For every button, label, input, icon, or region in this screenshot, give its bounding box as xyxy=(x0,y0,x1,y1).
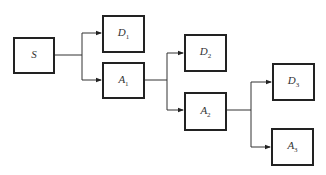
node-d3-label: D3 xyxy=(288,74,299,89)
node-a2: A2 xyxy=(184,92,227,131)
node-s: S xyxy=(13,37,55,74)
node-a1: A1 xyxy=(102,62,145,99)
node-s-label: S xyxy=(31,48,37,63)
node-d1-label: D1 xyxy=(118,26,129,41)
node-d3: D3 xyxy=(272,63,315,101)
node-a1-label: A1 xyxy=(118,73,128,88)
node-d2: D2 xyxy=(184,34,227,72)
node-d2-label: D2 xyxy=(200,45,211,60)
decision-diagram: S D1 A1 D2 A2 D3 A3 xyxy=(0,0,326,175)
node-a3: A3 xyxy=(271,128,314,166)
node-a3-label: A3 xyxy=(287,139,297,154)
node-d1: D1 xyxy=(102,15,145,53)
node-a2-label: A2 xyxy=(200,104,210,119)
